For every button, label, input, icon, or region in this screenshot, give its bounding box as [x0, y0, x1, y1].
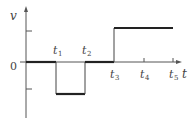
signal-diagram: v 0 t t 1 t 2 t 3 t 4 t 5	[0, 0, 195, 127]
t-axis-arrow-icon	[176, 60, 182, 64]
t3-subscript: 3	[115, 74, 119, 82]
t4-subscript: 4	[145, 74, 150, 82]
v-axis-label: v	[10, 9, 17, 23]
t1-subscript: 1	[58, 50, 62, 58]
origin-label: 0	[10, 60, 17, 73]
t2-subscript: 2	[87, 50, 91, 58]
t5-subscript: 5	[174, 74, 178, 82]
t-axis-label: t	[182, 67, 187, 81]
signal-waveform	[26, 28, 173, 94]
v-axis-arrow-icon	[24, 6, 28, 12]
